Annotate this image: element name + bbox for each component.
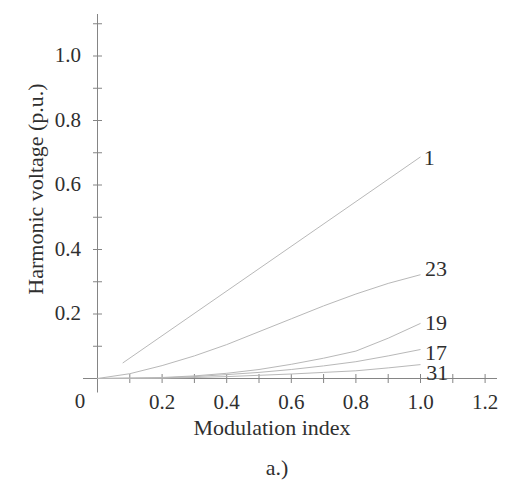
x-tick-label: 0.6 bbox=[278, 390, 304, 415]
y-tick-label: 0.6 bbox=[21, 172, 81, 197]
series-line-23 bbox=[98, 275, 421, 379]
series-line-1 bbox=[123, 157, 421, 363]
series-label-31: 31 bbox=[426, 360, 448, 386]
figure-caption: a.) bbox=[266, 455, 289, 481]
x-axis-title: Modulation index bbox=[193, 415, 350, 441]
origin-tick-label: 0 bbox=[75, 389, 86, 414]
series-label-19: 19 bbox=[425, 310, 447, 336]
x-tick-label: 1.0 bbox=[407, 390, 433, 415]
y-tick-label: 1.0 bbox=[21, 43, 81, 68]
x-tick-label: 0.8 bbox=[343, 390, 369, 415]
series-label-23: 23 bbox=[425, 256, 447, 282]
x-tick-label: 1.2 bbox=[472, 390, 498, 415]
y-tick-label: 0.2 bbox=[21, 301, 81, 326]
series-label-1: 1 bbox=[424, 145, 435, 171]
harmonic-voltage-figure: Harmonic voltage (p.u.) Modulation index… bbox=[0, 0, 529, 497]
y-tick-label: 0.4 bbox=[21, 237, 81, 262]
y-tick-label: 0.8 bbox=[21, 108, 81, 133]
x-tick-label: 0.2 bbox=[149, 390, 175, 415]
x-tick-label: 0.4 bbox=[214, 390, 240, 415]
